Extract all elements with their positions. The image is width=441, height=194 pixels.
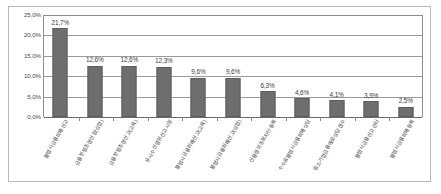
bar-slot: 12,6% [112, 15, 147, 117]
x-axis-category-labels: 불법사금융피해신고금융분쟁조정신청(상업)금융분쟁조정신고(교육)유사수신행위신… [43, 119, 423, 181]
bar[interactable] [398, 107, 413, 117]
bar-value-label: 2,5% [399, 98, 413, 104]
x-axis-category-label-text: 신용정보조회차단등록 [248, 119, 277, 164]
x-axis-category-label-text: 불법사금융피해신고 [43, 119, 69, 159]
x-axis-category-label-text: 금융분쟁조정신청(상업) [74, 119, 104, 166]
y-axis-tick-label: 0,0% [13, 114, 41, 120]
bar-value-label: 12,6% [121, 57, 139, 63]
bar-value-label: 21,7% [51, 20, 69, 26]
bar-slot: 6,3% [250, 15, 285, 117]
y-axis-tick-label: 25,0% [13, 12, 41, 18]
bar[interactable] [329, 100, 344, 117]
x-axis-category-label-text: 불법사금융피해등록 [389, 119, 415, 159]
y-axis-tick-label: 20,0% [13, 32, 41, 38]
x-axis-category-label-text: 금융분쟁조정신고(교육) [109, 119, 139, 166]
bar-slot: 4,1% [319, 15, 354, 117]
bar-slot: 9,6% [181, 15, 216, 117]
bar[interactable] [260, 91, 275, 117]
bar[interactable] [364, 101, 379, 117]
bar-value-label: 12,6% [86, 57, 104, 63]
bar-slot: 9,6% [216, 15, 251, 117]
bar-slot: 21,7% [43, 15, 78, 117]
bar-value-label: 4,6% [295, 90, 309, 96]
bar-series: 21,7%12,6%12,6%12,3%9,6%9,6%6,3%4,6%4,1%… [43, 15, 423, 117]
x-axis-category-label-text: 중소기업금융애로상담접수 [313, 119, 347, 172]
chart-plot-wrapper: 25,0%20,0%15,0%10,0%5,0%0,0% 21,7%12,6%1… [9, 7, 432, 183]
y-axis-tick-label: 15,0% [13, 53, 41, 59]
x-axis-category-label-text: 유사수신행위신고사항 [145, 119, 174, 164]
bar-slot: 2,5% [388, 15, 423, 117]
bar[interactable] [122, 66, 137, 117]
chart-frame: 25,0%20,0%15,0%10,0%5,0%0,0% 21,7%12,6%1… [8, 6, 431, 182]
bar[interactable] [295, 98, 310, 117]
bar[interactable] [87, 66, 102, 117]
x-axis-category-label-text: 불법사금융피해신고(교육) [175, 119, 208, 171]
bar-value-label: 12,3% [155, 58, 173, 64]
x-axis-category-label-text: 불법사금융신고센터 [354, 119, 380, 159]
bar-slot: 12,3% [147, 15, 182, 117]
y-axis-tick-label: 5,0% [13, 93, 41, 99]
bar-value-label: 9,6% [191, 69, 205, 75]
bar-value-label: 3,9% [364, 93, 378, 99]
y-axis: 25,0%20,0%15,0%10,0%5,0%0,0% [13, 15, 41, 117]
bar[interactable] [53, 28, 68, 117]
x-axis-category-label-text: 수수료불법사금융피해상담 [278, 119, 312, 172]
x-axis-category-label-text: 불법사금융피해신고(상업) [210, 119, 243, 171]
bar-slot: 12,6% [78, 15, 113, 117]
bar-slot: 3,9% [354, 15, 389, 117]
y-axis-tick-label: 10,0% [13, 73, 41, 79]
bar-value-label: 4,1% [330, 92, 344, 98]
bar-slot: 4,6% [285, 15, 320, 117]
